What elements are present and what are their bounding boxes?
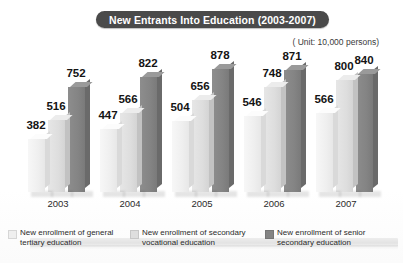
bar-value-label: 752 <box>66 67 85 79</box>
unit-note: ( Unit: 10,000 persons) <box>293 37 379 47</box>
bar-value-label: 840 <box>354 54 373 66</box>
legend-label: New enrollment of secondary vocational e… <box>142 228 270 247</box>
bar-value-label: 447 <box>98 109 117 121</box>
bar-value-label: 566 <box>118 93 137 105</box>
bar-front-face <box>264 87 281 192</box>
legend-label: New enrollment of general tertiary educa… <box>20 228 128 247</box>
bar-side-face <box>117 121 122 188</box>
bar-group-2003: 382516752 <box>28 52 85 192</box>
bar-value-label: 656 <box>190 80 209 92</box>
bar-2004-series3[interactable]: 822 <box>140 77 157 192</box>
bar-2007-series2[interactable]: 800 <box>336 80 353 192</box>
legend-item-1[interactable]: New enrollment of general tertiary educa… <box>8 228 128 247</box>
x-axis-label-2006: 2006 <box>263 198 284 209</box>
bar-side-face <box>157 69 162 188</box>
x-axis-label-2005: 2005 <box>191 198 212 209</box>
bar-group-2006: 546748871 <box>244 52 301 192</box>
bar-front-face <box>244 116 261 192</box>
bar-2005-series1[interactable]: 504 <box>172 121 189 192</box>
bar-2003-series3[interactable]: 752 <box>68 87 85 192</box>
bar-group-2004: 447566822 <box>100 52 157 192</box>
bar-front-face <box>284 70 301 192</box>
bar-side-face <box>209 92 214 188</box>
bar-side-face <box>261 108 266 188</box>
bar-side-face <box>189 113 194 188</box>
bar-front-face <box>356 74 373 192</box>
bar-value-label: 546 <box>242 96 261 108</box>
bar-side-face <box>281 79 286 188</box>
bar-front-face <box>100 129 117 192</box>
bar-front-face <box>192 100 209 192</box>
bar-2005-series3[interactable]: 878 <box>212 69 229 192</box>
chart-container: New Entrants Into Education (2003-2007) … <box>0 0 403 263</box>
bar-2005-series2[interactable]: 656 <box>192 100 209 192</box>
legend-item-2[interactable]: New enrollment of secondary vocational e… <box>130 228 270 247</box>
legend-swatch-icon <box>265 230 274 239</box>
bar-side-face <box>137 105 142 188</box>
bar-2003-series2[interactable]: 516 <box>48 120 65 192</box>
bar-value-label: 748 <box>262 67 281 79</box>
bar-value-label: 800 <box>334 60 353 72</box>
page-title: New Entrants Into Education (2003-2007) <box>109 14 316 26</box>
bar-side-face <box>333 105 338 188</box>
bar-side-face <box>229 61 234 188</box>
bar-side-face <box>65 112 70 188</box>
x-axis-label-2004: 2004 <box>119 198 140 209</box>
bar-front-face <box>28 139 45 192</box>
bar-value-label: 878 <box>210 49 229 61</box>
bar-2007-series3[interactable]: 840 <box>356 74 373 192</box>
plot-area: 3825167524475668225046568785467488715668… <box>22 52 382 192</box>
bar-side-face <box>301 62 306 188</box>
x-axis-label-2007: 2007 <box>335 198 356 209</box>
bar-side-face <box>45 131 50 188</box>
x-axis-label-2003: 2003 <box>47 198 68 209</box>
bar-value-label: 504 <box>170 101 189 113</box>
legend-item-3[interactable]: New enrollment of senior secondary educa… <box>265 228 400 247</box>
bar-2004-series1[interactable]: 447 <box>100 129 117 192</box>
bar-side-face <box>85 79 90 188</box>
bar-front-face <box>212 69 229 192</box>
x-axis-labels: 20032004200520062007 <box>22 198 382 212</box>
bar-side-face <box>373 66 378 188</box>
bar-front-face <box>316 113 333 192</box>
bar-front-face <box>140 77 157 192</box>
legend-swatch-icon <box>130 230 139 239</box>
legend-swatch-icon <box>8 230 17 239</box>
bar-value-label: 822 <box>138 57 157 69</box>
bar-2003-series1[interactable]: 382 <box>28 139 45 192</box>
bar-value-label: 516 <box>46 100 65 112</box>
bar-front-face <box>172 121 189 192</box>
bar-2006-series3[interactable]: 871 <box>284 70 301 192</box>
chart-title-pill: New Entrants Into Education (2003-2007) <box>96 11 329 28</box>
bar-group-2005: 504656878 <box>172 52 229 192</box>
bar-front-face <box>68 87 85 192</box>
bar-value-label: 871 <box>282 50 301 62</box>
bar-2006-series1[interactable]: 546 <box>244 116 261 192</box>
chart-legend: New enrollment of general tertiary educa… <box>0 228 403 260</box>
bar-side-face <box>353 72 358 188</box>
bar-2006-series2[interactable]: 748 <box>264 87 281 192</box>
bar-2007-series1[interactable]: 566 <box>316 113 333 192</box>
bar-front-face <box>48 120 65 192</box>
bar-value-label: 382 <box>26 119 45 131</box>
legend-label: New enrollment of senior secondary educa… <box>277 228 400 247</box>
bar-value-label: 566 <box>314 93 333 105</box>
bar-group-2007: 566800840 <box>316 52 373 192</box>
bar-front-face <box>336 80 353 192</box>
